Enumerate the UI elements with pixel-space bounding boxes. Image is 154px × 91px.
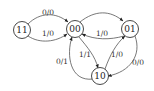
state-label: 00 [69, 24, 81, 34]
state-node-01: 01 [122, 21, 139, 38]
edge-label: 0/0 [132, 58, 144, 67]
state-node-11: 11 [14, 22, 31, 39]
state-label: 11 [16, 25, 27, 35]
state-node-00: 00 [67, 21, 84, 38]
edge-label: 0/1 [56, 57, 68, 66]
edge-label: 1/0 [96, 29, 108, 38]
edge-label: 1/1 [79, 50, 91, 59]
edge-label: 1/0 [111, 50, 123, 59]
edge-00-01 [80, 13, 123, 22]
state-diagram: 0/0 1/0 1/0 1/1 0/1 1/0 0/0 11 00 [0, 0, 154, 91]
state-node-10: 10 [92, 68, 109, 85]
edge-label: 0/0 [42, 8, 54, 17]
state-label: 01 [124, 24, 135, 34]
edges: 0/0 1/0 1/0 1/1 0/1 1/0 0/0 [28, 8, 144, 80]
edge-label: 1/0 [42, 29, 54, 38]
state-label: 10 [94, 71, 106, 81]
